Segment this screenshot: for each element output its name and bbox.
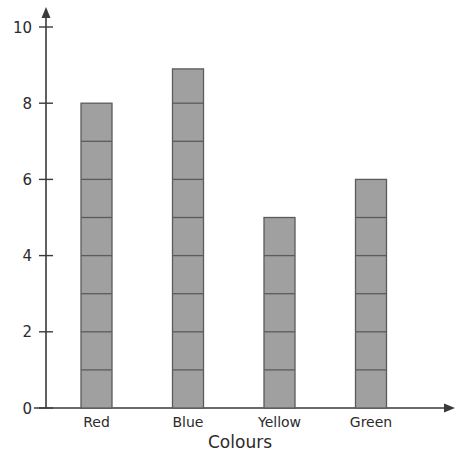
y-axis-tick-label: 0	[22, 400, 32, 418]
x-axis-title: Colours	[208, 432, 272, 452]
bar-chart-figure: 0246810RedBlueYellowGreenColours	[0, 0, 470, 461]
x-axis-category-label-yellow: Yellow	[257, 414, 301, 430]
bar-blue	[173, 69, 204, 408]
y-axis-tick-label: 2	[22, 323, 32, 341]
bar-green	[356, 179, 387, 408]
bar-rect	[173, 69, 204, 408]
y-axis-tick-label: 10	[13, 19, 32, 37]
y-axis-tick-label: 4	[22, 247, 32, 265]
bar-rect	[264, 218, 295, 409]
bar-red	[81, 103, 112, 408]
bar-yellow	[264, 218, 295, 409]
y-axis-tick-label: 8	[22, 95, 32, 113]
x-axis-category-label-red: Red	[83, 414, 110, 430]
arrow-up-icon	[42, 7, 51, 18]
y-axis-tick-label: 6	[22, 171, 32, 189]
x-axis-category-label-green: Green	[350, 414, 392, 430]
arrow-right-icon	[444, 404, 455, 413]
chart-canvas: 0246810RedBlueYellowGreenColours	[0, 0, 470, 461]
x-axis-category-label-blue: Blue	[173, 414, 204, 430]
